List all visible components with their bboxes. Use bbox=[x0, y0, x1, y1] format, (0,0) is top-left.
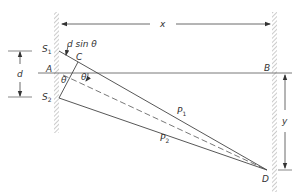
a-label: A bbox=[45, 64, 52, 74]
c-label: C bbox=[76, 52, 83, 62]
double-slit-diagram: x d y d sin θ S1 S2 A B C D θ θ P1 P2 bbox=[0, 0, 303, 192]
y-label: y bbox=[281, 116, 288, 126]
left-barrier bbox=[54, 12, 59, 133]
d-sin-theta-label: d sin θ bbox=[67, 39, 97, 49]
theta-left-label: θ bbox=[61, 75, 67, 85]
p2-label: P2 bbox=[160, 133, 169, 144]
ray-p1 bbox=[59, 51, 267, 170]
center-ray bbox=[63, 75, 267, 170]
d-label: d bbox=[17, 69, 23, 79]
d-point-label: D bbox=[262, 174, 269, 184]
x-label: x bbox=[159, 19, 166, 29]
p1-label: P1 bbox=[177, 106, 186, 117]
screen-wall bbox=[272, 12, 277, 192]
s1-label: S1 bbox=[42, 44, 52, 55]
theta-right-label: θ bbox=[81, 72, 87, 82]
b-label: B bbox=[264, 63, 270, 73]
s2-label: S2 bbox=[42, 92, 52, 103]
